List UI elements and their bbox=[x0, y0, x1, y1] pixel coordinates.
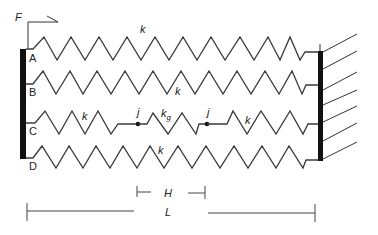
spring-b bbox=[26, 71, 318, 94]
spring-d bbox=[26, 146, 318, 168]
left-rigid-bar bbox=[20, 49, 26, 159]
dimension-h-label: H bbox=[164, 187, 172, 199]
spring-c-right bbox=[207, 111, 318, 134]
spring-system-diagram: F k A k B k C j kg j k k D bbox=[0, 0, 378, 235]
spring-c-middle bbox=[138, 113, 207, 134]
force-arrow bbox=[28, 16, 58, 48]
spring-c-middle-label: kg bbox=[161, 107, 172, 122]
joint-left-label: j bbox=[135, 106, 140, 118]
node-d-label: D bbox=[29, 160, 37, 172]
force-label: F bbox=[15, 11, 23, 23]
spring-c-right-label: k bbox=[245, 114, 251, 126]
right-fixed-wall bbox=[318, 34, 357, 161]
dimension-l-label: L bbox=[165, 206, 171, 218]
node-a-label: A bbox=[29, 52, 37, 64]
node-c-label: C bbox=[29, 125, 37, 137]
hatching bbox=[323, 34, 357, 159]
spring-c-left-label: k bbox=[82, 110, 88, 122]
joint-right-label: j bbox=[205, 106, 210, 118]
spring-a-label: k bbox=[140, 23, 146, 35]
node-b-label: B bbox=[29, 86, 36, 98]
spring-a bbox=[26, 37, 318, 60]
spring-d-label: k bbox=[158, 144, 164, 156]
spring-b-label: k bbox=[175, 85, 181, 97]
